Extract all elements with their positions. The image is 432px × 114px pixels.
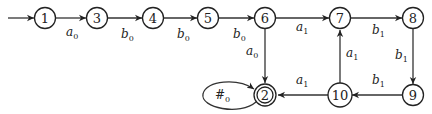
state-5: 5 xyxy=(198,8,219,29)
edge-labels: a0 b0 b0 b0 a1 b1 a0 b1 b1 a1 a1 #0 xyxy=(66,20,408,104)
label-10-7: a1 xyxy=(346,46,358,62)
state-10: 10 xyxy=(328,83,352,107)
state-3: 3 xyxy=(87,8,108,29)
state-1: 1 xyxy=(35,8,56,29)
state-2-accepting: 2 xyxy=(254,84,276,106)
state-label: 1 xyxy=(41,11,49,26)
label-1-3: a0 xyxy=(66,25,78,41)
state-label: 10 xyxy=(332,88,349,103)
label-5-6: b0 xyxy=(233,27,246,43)
state-label: 3 xyxy=(93,11,101,26)
state-label: 4 xyxy=(149,11,157,26)
label-6-7: a1 xyxy=(296,20,308,36)
state-6: 6 xyxy=(255,8,276,29)
label-4-5: b0 xyxy=(177,27,190,43)
label-7-8: b1 xyxy=(372,23,385,39)
state-label: 6 xyxy=(261,11,269,26)
automaton-diagram: a0 b0 b0 b0 a1 b1 a0 b1 b1 a1 a1 #0 1 3 … xyxy=(0,0,432,114)
label-6-2: a0 xyxy=(246,44,258,60)
state-label: 9 xyxy=(409,88,417,103)
state-4: 4 xyxy=(143,8,164,29)
state-9: 9 xyxy=(403,85,424,106)
state-label: 2 xyxy=(261,88,269,103)
state-label: 5 xyxy=(204,11,212,26)
state-label: 7 xyxy=(336,11,344,26)
label-8-9: b1 xyxy=(395,48,408,64)
state-8: 8 xyxy=(403,8,424,29)
label-9-10: b1 xyxy=(372,73,385,89)
state-label: 8 xyxy=(409,11,417,26)
label-self-loop-2: #0 xyxy=(215,88,230,104)
label-3-4: b0 xyxy=(121,27,134,43)
state-7: 7 xyxy=(330,8,351,29)
label-10-2: a1 xyxy=(296,73,308,89)
